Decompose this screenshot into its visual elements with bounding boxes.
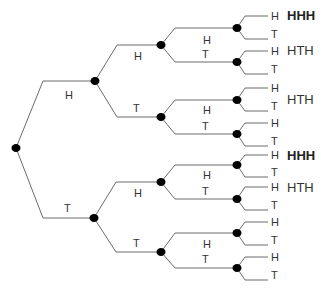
level3-node bbox=[233, 58, 242, 66]
edge-leaf bbox=[237, 123, 268, 134]
level1-node bbox=[90, 214, 99, 222]
branch-label-h: H bbox=[134, 50, 142, 62]
branch-label-t: T bbox=[133, 237, 140, 249]
edge-leaf bbox=[237, 165, 268, 177]
branch-label-t: T bbox=[133, 102, 140, 114]
level3-node bbox=[233, 161, 242, 169]
edge-level2 bbox=[94, 182, 161, 218]
coin-toss-tree-diagram: HTHTHTHTHTHTHTHTHTHTHTHTHTHTHT HHHHTHHTH… bbox=[0, 0, 327, 294]
edge-leaf bbox=[237, 199, 268, 210]
edge-leaf bbox=[237, 268, 268, 280]
outcome-labels: HHHHTHHTHHHHHTH bbox=[287, 8, 315, 195]
leaf-label-t: T bbox=[271, 199, 278, 211]
edge-level3 bbox=[161, 117, 237, 134]
edge-level3 bbox=[161, 28, 237, 45]
level3-node bbox=[233, 130, 242, 138]
edge-level3 bbox=[161, 182, 237, 199]
leaf-label-h: H bbox=[271, 82, 279, 94]
edge-level2 bbox=[95, 81, 161, 117]
leaf-label-t: T bbox=[271, 63, 278, 75]
outcome-label-hhh: HHH bbox=[287, 8, 315, 23]
outcome-label-hhh: HHH bbox=[287, 148, 315, 163]
edge-level3 bbox=[161, 252, 237, 268]
branch-label-t: T bbox=[202, 120, 209, 132]
edge-leaf bbox=[237, 62, 268, 74]
edge-level3 bbox=[161, 165, 237, 182]
tree-edges bbox=[16, 16, 268, 280]
edge-level2 bbox=[95, 45, 161, 81]
level3-node bbox=[233, 96, 242, 104]
outcome-label-hth: HTH bbox=[287, 92, 314, 107]
leaf-label-h: H bbox=[271, 181, 279, 193]
branch-label-h: H bbox=[203, 238, 211, 250]
edge-leaf bbox=[237, 257, 268, 268]
edge-leaf bbox=[237, 222, 268, 233]
level3-node bbox=[233, 264, 242, 272]
edge-leaf bbox=[237, 88, 268, 100]
edge-level3 bbox=[161, 45, 237, 62]
branch-label-t: T bbox=[202, 253, 209, 265]
level2-node bbox=[157, 178, 166, 186]
leaf-label-h: H bbox=[271, 10, 279, 22]
edge-leaf bbox=[237, 16, 268, 28]
edge-level1 bbox=[16, 148, 94, 218]
leaf-label-t: T bbox=[271, 28, 278, 40]
level1-node bbox=[91, 77, 100, 85]
tree-nodes bbox=[12, 24, 242, 272]
leaf-label-h: H bbox=[271, 149, 279, 161]
level2-node bbox=[157, 248, 166, 256]
leaf-label-t: T bbox=[271, 269, 278, 281]
branch-label-h: H bbox=[134, 187, 142, 199]
outcome-label-hth: HTH bbox=[287, 180, 314, 195]
leaf-label-t: T bbox=[271, 100, 278, 112]
edge-leaf bbox=[237, 187, 268, 199]
outcome-label-hth: HTH bbox=[287, 43, 314, 58]
edge-leaf bbox=[237, 233, 268, 245]
edge-leaf bbox=[237, 51, 268, 62]
level3-node bbox=[233, 229, 242, 237]
branch-label-t: T bbox=[202, 185, 209, 197]
edge-level3 bbox=[161, 100, 237, 117]
level3-node bbox=[233, 195, 242, 203]
level2-node bbox=[157, 113, 166, 121]
branch-label-t: T bbox=[202, 48, 209, 60]
branch-label-t: T bbox=[64, 202, 71, 214]
leaf-label-t: T bbox=[271, 135, 278, 147]
root-node bbox=[12, 144, 21, 152]
leaf-label-h: H bbox=[271, 251, 279, 263]
level2-node bbox=[157, 41, 166, 49]
level3-node bbox=[233, 24, 242, 32]
leaf-label-t: T bbox=[271, 234, 278, 246]
edge-leaf bbox=[237, 134, 268, 146]
branch-label-h: H bbox=[65, 89, 73, 101]
leaf-label-h: H bbox=[271, 216, 279, 228]
leaf-label-t: T bbox=[271, 166, 278, 178]
edge-level3 bbox=[161, 233, 237, 252]
edge-leaf bbox=[237, 155, 268, 165]
edge-leaf bbox=[237, 28, 268, 39]
edge-leaf bbox=[237, 100, 268, 111]
branch-label-h: H bbox=[203, 34, 211, 46]
branch-label-h: H bbox=[203, 104, 211, 116]
edge-level1 bbox=[16, 81, 95, 148]
leaf-label-h: H bbox=[271, 45, 279, 57]
branch-label-h: H bbox=[203, 169, 211, 181]
leaf-label-h: H bbox=[271, 117, 279, 129]
edge-level2 bbox=[94, 218, 161, 252]
